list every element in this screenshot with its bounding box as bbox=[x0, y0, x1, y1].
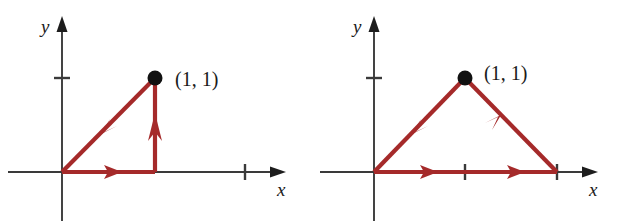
left-path-diagram: (1, 1) y x bbox=[0, 0, 311, 221]
path-right-vertical-segment bbox=[148, 78, 162, 172]
x-axis-label: x bbox=[588, 179, 598, 200]
marked-point-dot bbox=[148, 71, 163, 86]
y-axis bbox=[369, 16, 380, 221]
path-right-diagonal-segment bbox=[465, 78, 557, 172]
point-label: (1, 1) bbox=[175, 68, 218, 91]
point-label: (1, 1) bbox=[484, 62, 527, 85]
y-axis bbox=[57, 16, 68, 221]
right-path-diagram: (1, 1) y x bbox=[311, 0, 623, 221]
path-left-diagonal-segment bbox=[374, 78, 465, 172]
path-bottom-segment-first bbox=[374, 165, 465, 179]
path-bottom-segment bbox=[62, 165, 155, 179]
x-axis-label: x bbox=[276, 179, 286, 200]
marked-point-dot bbox=[458, 71, 473, 86]
arrow-up-left-icon bbox=[485, 115, 501, 130]
path-diagonal-segment bbox=[62, 78, 155, 172]
path-bottom-segment-second bbox=[465, 165, 557, 179]
y-axis-label: y bbox=[351, 16, 362, 37]
x-axis-arrowhead bbox=[582, 167, 598, 178]
x-axis-arrowhead bbox=[270, 167, 286, 178]
y-axis-arrowhead bbox=[369, 16, 380, 32]
figure-container: (1, 1) y x bbox=[0, 0, 623, 221]
y-axis-label: y bbox=[39, 16, 50, 37]
y-axis-arrowhead bbox=[57, 16, 68, 32]
